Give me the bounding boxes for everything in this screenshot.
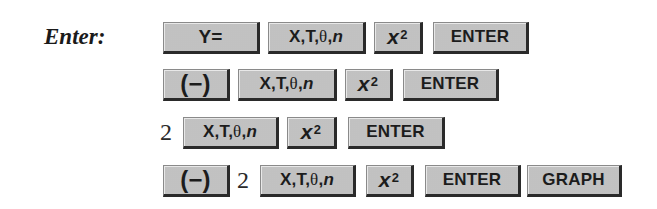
- xttn-key[interactable]: X,T,θ,n: [238, 69, 337, 101]
- superscript-2: 2: [314, 122, 321, 137]
- theta-glyph: θ: [319, 27, 327, 47]
- enter-key[interactable]: ENTER: [425, 165, 521, 197]
- n-glyph: n: [332, 27, 343, 47]
- negative-key[interactable]: (−): [163, 165, 230, 197]
- key-label: GRAPH: [542, 170, 604, 190]
- key-label: (−): [180, 70, 211, 98]
- key-label: ENTER: [451, 27, 510, 47]
- enter-key[interactable]: ENTER: [403, 69, 499, 101]
- n-glyph: n: [323, 170, 334, 190]
- x-glyph: x: [379, 168, 391, 192]
- key-label: ENTER: [443, 170, 502, 190]
- negative-key[interactable]: (−): [163, 69, 230, 101]
- xttn-key[interactable]: X,T,θ,n: [268, 22, 366, 54]
- graph-key[interactable]: GRAPH: [527, 165, 622, 197]
- xttn-key[interactable]: X,T,θ,n: [183, 117, 279, 149]
- number-two: 2: [160, 116, 172, 148]
- enter-key[interactable]: ENTER: [433, 22, 529, 54]
- theta-glyph: θ: [233, 122, 241, 142]
- key-label-xt: X,T,: [289, 27, 319, 47]
- x-squared-key[interactable]: x2: [345, 69, 393, 101]
- x-squared-key[interactable]: x2: [366, 165, 414, 197]
- superscript-2: 2: [392, 170, 399, 185]
- theta-glyph: θ: [290, 74, 298, 94]
- key-label: ENTER: [421, 74, 480, 94]
- x-glyph: x: [301, 120, 313, 144]
- key-label: (−): [180, 166, 211, 194]
- superscript-2: 2: [400, 27, 407, 42]
- y-equals-key[interactable]: Y=: [163, 22, 260, 54]
- x-glyph: x: [358, 72, 370, 96]
- xttn-key[interactable]: X,T,θ,n: [260, 165, 356, 197]
- key-label: Y=: [198, 26, 222, 48]
- n-glyph: n: [246, 122, 257, 142]
- instruction-label: Enter:: [44, 22, 105, 52]
- key-label-xt: X,T,: [260, 74, 290, 94]
- x-squared-key[interactable]: x2: [374, 22, 423, 54]
- x-squared-key[interactable]: x2: [287, 117, 337, 149]
- theta-glyph: θ: [310, 170, 318, 190]
- enter-key[interactable]: ENTER: [348, 117, 445, 149]
- key-label-xt: X,T,: [203, 122, 233, 142]
- number-two: 2: [237, 164, 249, 196]
- n-glyph: n: [303, 74, 314, 94]
- key-label: ENTER: [366, 122, 425, 142]
- key-label-xt: X,T,: [280, 170, 310, 190]
- x-glyph: x: [387, 25, 399, 49]
- superscript-2: 2: [371, 74, 378, 89]
